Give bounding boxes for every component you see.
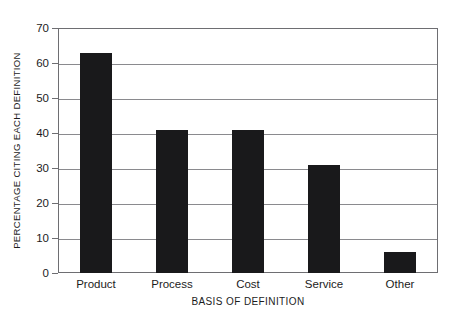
y-axis-tick-label: 50: [36, 92, 49, 104]
x-axis-title: BASIS OF DEFINITION: [58, 296, 438, 307]
y-axis-tick: [52, 273, 58, 274]
y-axis-tick-label: 30: [36, 162, 49, 174]
y-axis-tick-label: 10: [36, 232, 49, 244]
x-axis-tick-label: Product: [58, 278, 134, 290]
gridline: [59, 239, 437, 240]
x-axis-tick-labels: ProductProcessCostServiceOther: [58, 278, 438, 294]
y-axis-tick-label: 60: [36, 57, 49, 69]
y-axis-tick-label: 40: [36, 127, 49, 139]
gridline: [59, 64, 437, 65]
x-axis-tick-label: Process: [134, 278, 210, 290]
chart-figure: PERCENTAGE CITING EACH DEFINITION 010203…: [0, 0, 451, 323]
y-axis-tick-label: 0: [43, 267, 49, 279]
gridline: [59, 204, 437, 205]
y-axis-tick-label: 70: [36, 22, 49, 34]
gridline: [59, 134, 437, 135]
plot-area: [58, 28, 438, 273]
x-axis-tick-label: Other: [362, 278, 438, 290]
y-axis-tick-labels: 010203040506070: [0, 28, 49, 273]
x-axis-tick-label: Cost: [210, 278, 286, 290]
y-axis-tick-label: 20: [36, 197, 49, 209]
gridlines: [59, 29, 437, 272]
gridline: [59, 169, 437, 170]
x-axis-tick-label: Service: [286, 278, 362, 290]
gridline: [59, 99, 437, 100]
